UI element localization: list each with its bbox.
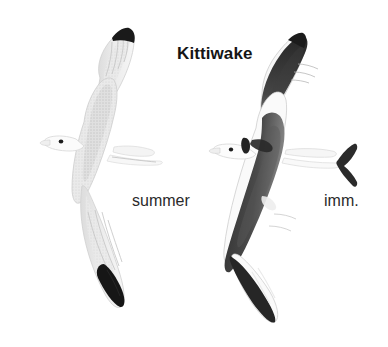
page-title: Kittiwake [177,45,253,62]
immature-plumage-label: imm. [324,193,359,209]
imm-underwing-patch [261,196,276,210]
figure-adult-summer [40,28,162,308]
imm-tail-band [336,144,357,187]
imm-midwing-lines [269,214,296,231]
summer-plumage-label: summer [132,193,190,209]
imm-far-wing [285,149,336,158]
bird-illustration-plate: Kittiwake summer imm. [0,0,388,347]
eye [59,140,64,144]
imm-tail [282,158,340,168]
figure-immature [209,33,357,323]
imm-eye [229,148,233,152]
far-wing [113,146,154,156]
bill [40,140,50,145]
imm-bill [209,148,220,153]
